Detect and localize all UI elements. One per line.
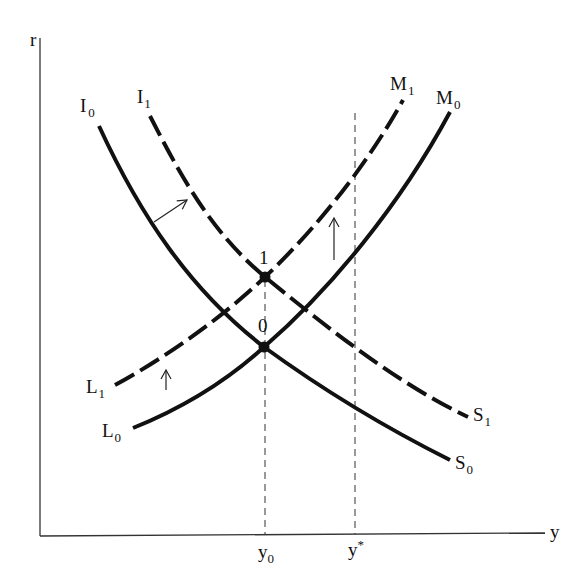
svg-text:y0: y0 (258, 541, 274, 566)
svg-text:y*: y* (348, 537, 364, 560)
x-tick-y0: y0 (258, 541, 274, 566)
is0-curve (99, 126, 450, 460)
lm1-top-label: M1 (390, 73, 414, 98)
axes: r y (30, 29, 560, 542)
reference-lines (265, 113, 355, 534)
equilibrium-point-1: 1 (259, 247, 271, 283)
lm1-bottom-label: L1 (86, 376, 105, 401)
svg-text:1: 1 (259, 247, 269, 268)
x-tick-y-star: y* (348, 537, 364, 560)
svg-text:0: 0 (258, 315, 268, 336)
equilibrium-point-0: 0 (258, 315, 270, 353)
lm0-curve (133, 112, 450, 428)
lm0-bottom-label: L0 (102, 420, 121, 445)
x-axis-label: y (550, 521, 560, 542)
is0-top-label: I0 (80, 95, 95, 120)
arrow-up-right-icon (154, 200, 187, 222)
lm0-top-label: M0 (436, 87, 460, 112)
is1-bottom-label: S1 (473, 404, 491, 429)
is0-bottom-label: S0 (455, 452, 473, 477)
is1-top-label: I1 (137, 86, 151, 111)
y-axis-label: r (30, 29, 37, 50)
is-lm-diagram: r y y0 y* I0 I1 S1 S0 L1 L0 M1 M0 1 0 (0, 0, 586, 583)
x-axis-line (40, 533, 545, 536)
